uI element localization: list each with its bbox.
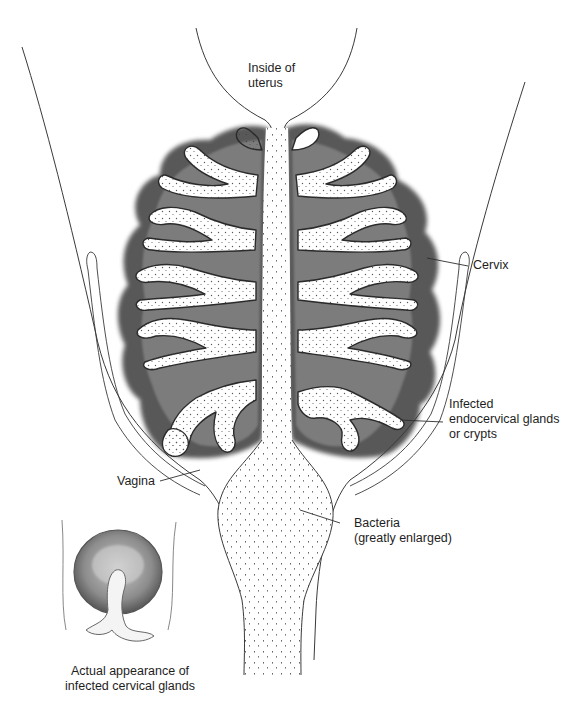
bacteria-label-line2: (greatly enlarged) [354, 531, 452, 546]
inset-caption-line1: Actual appearance of [50, 664, 210, 679]
uterus-label-line2: uterus [248, 76, 295, 91]
label-inside-of-uterus: Inside of uterus [248, 61, 295, 91]
vagina-label-line1: Vagina [117, 474, 155, 489]
glands-label-line1: Infected [449, 397, 560, 412]
glands-label-line2: endocervical glands [449, 412, 560, 427]
inset-caption-line2: infected cervical glands [50, 679, 210, 694]
label-bacteria: Bacteria (greatly enlarged) [354, 516, 452, 546]
glands-label-line3: or crypts [449, 427, 560, 442]
label-infected-glands: Infected endocervical glands or crypts [449, 397, 560, 442]
uterus-label-line1: Inside of [248, 61, 295, 76]
label-cervix: Cervix [473, 258, 508, 273]
cervix-label-line1: Cervix [473, 258, 508, 273]
cervix-illustration [0, 0, 575, 708]
label-vagina: Vagina [117, 474, 155, 489]
bacteria-label-line1: Bacteria [354, 516, 452, 531]
inset-illustration [62, 520, 176, 641]
label-inset-caption: Actual appearance of infected cervical g… [50, 664, 210, 694]
